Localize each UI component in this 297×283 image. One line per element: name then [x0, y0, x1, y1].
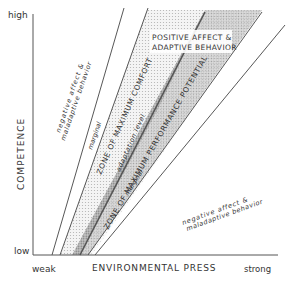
y-high-label: high: [8, 10, 28, 20]
x-axis-label: ENVIRONMENTAL PRESS: [92, 263, 216, 273]
svg-text:ADAPTIVE BEHAVIOR: ADAPTIVE BEHAVIOR: [152, 43, 237, 52]
y-low-label: low: [14, 246, 29, 256]
upper-negative-label: negative affect & maladaptive behavior: [52, 57, 93, 141]
x-strong-label: strong: [244, 264, 271, 274]
positive-affect-label: POSITIVE AFFECT & ADAPTIVE BEHAVIOR: [150, 30, 237, 53]
lower-negative-label: negative affect & maladaptive behavior: [181, 191, 265, 234]
x-weak-label: weak: [32, 264, 56, 274]
y-axis-label: COMPETENCE: [16, 118, 26, 190]
svg-text:POSITIVE AFFECT &: POSITIVE AFFECT &: [152, 33, 232, 42]
ecological-model-diagram: high low COMPETENCE weak ENVIRONMENTAL P…: [0, 0, 297, 283]
